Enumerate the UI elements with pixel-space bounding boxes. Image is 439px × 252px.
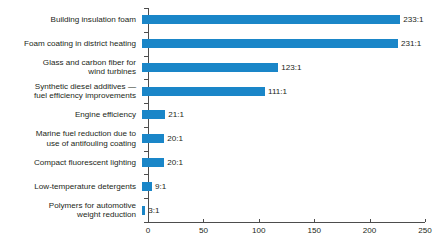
x-tick-mark [203, 219, 204, 222]
x-axis-line [148, 222, 425, 223]
category-label: Building insulation foam [0, 15, 142, 24]
bar-value-label: 123:1 [281, 63, 301, 72]
bar [142, 63, 278, 72]
y-tick-mark [144, 8, 148, 9]
category-label: Foam coating in district heating [0, 39, 142, 48]
chart-row: Engine efficiency21:1 [0, 103, 439, 127]
bar-zone: 3:1 [142, 198, 433, 222]
bar [142, 206, 145, 215]
chart-row: Marine fuel reduction due to use of anti… [0, 127, 439, 151]
x-tick-mark [370, 219, 371, 222]
y-tick-mark [144, 79, 148, 80]
x-tick-mark [314, 219, 315, 222]
bar-value-label: 20:1 [167, 134, 183, 143]
category-label: Engine efficiency [0, 110, 142, 119]
bar-zone: 233:1 [142, 8, 433, 32]
bar-value-label: 9:1 [155, 182, 166, 191]
chart-row: Synthetic diesel additives — fuel effici… [0, 79, 439, 103]
y-tick-mark [144, 174, 148, 175]
y-tick-mark [144, 103, 148, 104]
x-tick-label: 100 [252, 226, 266, 235]
chart-row: Building insulation foam233:1 [0, 8, 439, 32]
bar [142, 110, 165, 119]
category-label: Polymers for automotive weight reduction [0, 201, 142, 220]
x-tick-label: 0 [146, 226, 151, 235]
bar-value-label: 231:1 [401, 39, 421, 48]
x-tick-label: 250 [418, 226, 432, 235]
bar [142, 134, 164, 143]
bar-zone: 111:1 [142, 79, 433, 103]
bar-zone: 231:1 [142, 32, 433, 56]
category-label: Synthetic diesel additives — fuel effici… [0, 82, 142, 101]
x-tick-mark [425, 219, 426, 222]
x-tick-label: 150 [307, 226, 321, 235]
y-tick-mark [144, 198, 148, 199]
bar-value-label: 111:1 [268, 87, 287, 96]
y-tick-mark [144, 127, 148, 128]
y-tick-mark [144, 56, 148, 57]
chart-row: Glass and carbon fiber for wind turbines… [0, 56, 439, 80]
bar [142, 158, 164, 167]
x-tick-label: 200 [363, 226, 377, 235]
chart-row: Foam coating in district heating231:1 [0, 32, 439, 56]
bar-value-label: 21:1 [168, 110, 184, 119]
bar-zone: 123:1 [142, 56, 433, 80]
x-tick-mark [259, 219, 260, 222]
y-tick-mark [144, 151, 148, 152]
x-tick-mark [148, 219, 149, 222]
chart-row: Low-temperature detergents9:1 [0, 174, 439, 198]
category-label: Marine fuel reduction due to use of anti… [0, 129, 142, 148]
category-label: Compact fluorescent lighting [0, 158, 142, 167]
bar-zone: 20:1 [142, 151, 433, 175]
x-tick-label: 50 [199, 226, 208, 235]
bar [142, 182, 152, 191]
chart-row: Polymers for automotive weight reduction… [0, 198, 439, 222]
bar-zone: 21:1 [142, 103, 433, 127]
bar-value-label: 233:1 [403, 15, 423, 24]
category-label: Low-temperature detergents [0, 182, 142, 191]
bar-zone: 9:1 [142, 174, 433, 198]
bar-zone: 20:1 [142, 127, 433, 151]
bar-value-label: 20:1 [167, 158, 183, 167]
bar-value-label: 3:1 [148, 206, 159, 215]
bar [142, 39, 398, 48]
horizontal-bar-chart: Building insulation foam233:1Foam coatin… [0, 0, 439, 252]
chart-row: Compact fluorescent lighting20:1 [0, 151, 439, 175]
y-tick-mark [144, 222, 148, 223]
bar [142, 87, 265, 96]
bar [142, 15, 400, 24]
category-label: Glass and carbon fiber for wind turbines [0, 58, 142, 77]
y-tick-mark [144, 32, 148, 33]
